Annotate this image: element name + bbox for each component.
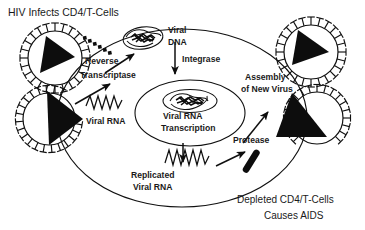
label-viral-dna-line1: Viral [168, 25, 186, 35]
page-title: HIV Infects CD4/T-Cells [8, 6, 119, 18]
diagram-canvas: HIV Infects CD4/T-Cells Reverse Transcri… [0, 0, 365, 230]
caption-line1: Depleted CD4/T-Cells [237, 194, 334, 205]
label-reverse-transcriptase-line2: Transcriptase [80, 70, 136, 80]
label-replicated-rna-line2: Viral RNA [133, 182, 172, 192]
integrated-provirus-scribble [176, 97, 204, 105]
label-replicated-rna-line1: Replicated [131, 170, 174, 180]
caption-line2: Causes AIDS [264, 210, 324, 221]
label-viral-rna-transcription-line2: Transcription [161, 123, 215, 133]
capsid-triangle [40, 36, 75, 73]
label-assembly-line1: Assembly [245, 72, 286, 82]
hiv-virion-fusing [15, 85, 83, 152]
replicated-viral-rna-zigzag [165, 150, 209, 165]
arrow-to-protease [216, 152, 245, 166]
label-integrase: Integrase [182, 54, 220, 64]
label-reverse-transcriptase-line1: Reverse [85, 56, 119, 66]
hiv-virion-free [20, 23, 90, 93]
hiv-virion-released [276, 17, 346, 87]
viral-dna-scribble [131, 34, 155, 42]
viral-rna-zigzag [86, 96, 122, 109]
label-viral-rna: Viral RNA [86, 116, 125, 126]
label-assembly-line2: of New Virus [241, 84, 293, 94]
capsid-triangle [292, 30, 329, 65]
label-protease: Protease [233, 135, 270, 145]
integrated-provirus-tangle [163, 90, 217, 113]
label-viral-dna-line2: DNA [168, 37, 187, 47]
hiv-replication-cycle-diagram: HIV Infects CD4/T-Cells Reverse Transcri… [0, 0, 365, 230]
label-viral-rna-transcription-line1: Viral RNA [163, 111, 202, 121]
